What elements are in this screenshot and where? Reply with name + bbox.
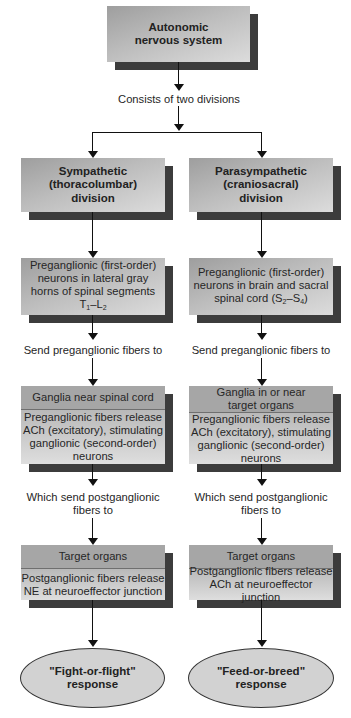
arrowhead-icon bbox=[88, 251, 98, 258]
target-body: Postganglionic fibers release NE at neur… bbox=[21, 569, 165, 600]
connector bbox=[92, 358, 93, 380]
preganglionic-line1: Preganglionic (first-order) bbox=[194, 266, 329, 279]
arrowhead-icon bbox=[257, 151, 267, 158]
division-line2: (thoracolumbar) bbox=[49, 178, 137, 192]
connector-branch-left bbox=[92, 132, 93, 151]
connector bbox=[261, 518, 262, 539]
connector bbox=[92, 315, 93, 335]
sympathetic-target-box: Target organs Postganglionic fibers rele… bbox=[21, 545, 165, 600]
parasympathetic-ganglia-box: Ganglia in or near target organs Pregang… bbox=[189, 386, 333, 464]
sympathetic-ganglia-box: Ganglia near spinal cord Preganglionic f… bbox=[21, 386, 165, 464]
root-line2: nervous system bbox=[135, 34, 223, 48]
arrowhead-icon bbox=[257, 251, 267, 258]
arrowhead-icon bbox=[88, 151, 98, 158]
division-line2: (craniosacral) bbox=[215, 178, 307, 192]
arrowhead-icon bbox=[88, 538, 98, 545]
fight-or-flight-response: "Fight-or-flight" response bbox=[20, 648, 165, 708]
send-postganglionic-label: Which send postganglionic fibers to bbox=[12, 491, 174, 517]
root-line1: Autonomic bbox=[135, 21, 223, 35]
arrowhead-icon bbox=[174, 124, 184, 131]
preganglionic-line3: horns of spinal segments bbox=[30, 285, 156, 298]
connector-split bbox=[178, 106, 179, 126]
division-line1: Sympathetic bbox=[49, 165, 137, 179]
ganglia-header: Ganglia in or near target organs bbox=[189, 386, 333, 413]
connector bbox=[261, 358, 262, 380]
preganglionic-line2: neurons in lateral gray bbox=[30, 272, 156, 285]
division-line1: Parasympathetic bbox=[215, 165, 307, 179]
connector bbox=[92, 600, 93, 641]
connector bbox=[92, 464, 93, 480]
connector bbox=[261, 315, 262, 335]
connector bbox=[261, 212, 262, 251]
arrowhead-icon bbox=[88, 640, 98, 647]
parasympathetic-division-box: Parasympathetic (craniosacral) division bbox=[189, 158, 333, 212]
sympathetic-division-box: Sympathetic (thoracolumbar) division bbox=[21, 158, 165, 212]
connector-branch-right bbox=[261, 132, 262, 151]
arrowhead-icon bbox=[257, 333, 267, 340]
arrowhead-icon bbox=[257, 538, 267, 545]
send-preganglionic-label: Send preganglionic fibers to bbox=[12, 344, 174, 357]
division-line3: division bbox=[49, 192, 137, 206]
parasympathetic-target-box: Target organs Postganglionic fibers rele… bbox=[189, 545, 333, 600]
connector bbox=[261, 464, 262, 480]
ganglia-body: Preganglionic fibers release ACh (excita… bbox=[21, 410, 165, 464]
spinal-segments: T1–L2 bbox=[30, 298, 156, 314]
preganglionic-line1: Preganglionic (first-order) bbox=[30, 259, 156, 272]
target-body: Postganglionic fibers release ACh at neu… bbox=[189, 569, 333, 600]
arrowhead-icon bbox=[257, 640, 267, 647]
sympathetic-preganglionic-box: Preganglionic (first-order) neurons in l… bbox=[21, 258, 165, 315]
arrowhead-icon bbox=[88, 479, 98, 486]
arrowhead-icon bbox=[174, 84, 184, 91]
ganglia-header: Ganglia near spinal cord bbox=[21, 386, 165, 410]
feed-or-breed-response: "Feed-or-breed" response bbox=[188, 648, 334, 708]
root-box-autonomic-nervous-system: Autonomic nervous system bbox=[107, 6, 250, 62]
arrowhead-icon bbox=[257, 379, 267, 386]
parasympathetic-preganglionic-box: Preganglionic (first-order) neurons in b… bbox=[189, 258, 333, 315]
split-label: Consists of two divisions bbox=[60, 93, 298, 106]
preganglionic-line2: neurons in brain and sacral bbox=[194, 279, 329, 292]
arrowhead-icon bbox=[88, 379, 98, 386]
spinal-cord-segments: spinal cord (S2–S4) bbox=[194, 292, 329, 308]
arrowhead-icon bbox=[88, 333, 98, 340]
arrowhead-icon bbox=[257, 479, 267, 486]
connector-root bbox=[178, 62, 179, 84]
connector bbox=[261, 600, 262, 641]
connector bbox=[92, 212, 93, 251]
send-postganglionic-label: Which send postganglionic fibers to bbox=[180, 491, 342, 517]
ganglia-body: Preganglionic fibers release ACh (excita… bbox=[189, 413, 333, 464]
connector bbox=[92, 518, 93, 539]
division-line3: division bbox=[215, 192, 307, 206]
target-header: Target organs bbox=[21, 545, 165, 569]
connector-branch bbox=[92, 132, 262, 133]
send-preganglionic-label: Send preganglionic fibers to bbox=[180, 344, 342, 357]
